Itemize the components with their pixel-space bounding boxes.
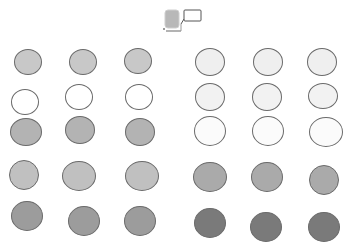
circle-node[interactable] [69, 49, 97, 75]
circle-node[interactable] [195, 83, 225, 111]
circle-node[interactable] [194, 208, 226, 238]
circle-node[interactable] [124, 48, 152, 74]
circle-node[interactable] [125, 84, 153, 110]
circle-node[interactable] [10, 118, 42, 146]
circle-node[interactable] [308, 83, 338, 109]
circle-node[interactable] [65, 84, 93, 110]
node-with-callout-icon[interactable] [160, 6, 205, 38]
circle-node[interactable] [250, 212, 282, 242]
circle-node[interactable] [124, 206, 156, 236]
circle-node[interactable] [14, 49, 42, 75]
circle-node[interactable] [308, 212, 340, 242]
circle-node[interactable] [253, 48, 283, 76]
circle-node[interactable] [252, 83, 282, 111]
circle-node[interactable] [65, 116, 95, 144]
circle-node[interactable] [252, 116, 284, 146]
circle-node[interactable] [309, 117, 343, 147]
circle-node[interactable] [193, 162, 227, 192]
circle-node[interactable] [195, 48, 225, 76]
circle-node[interactable] [307, 48, 337, 76]
circle-node[interactable] [11, 201, 43, 231]
dot-canvas [0, 0, 349, 252]
circle-node[interactable] [9, 160, 39, 190]
circle-node[interactable] [309, 165, 339, 195]
circle-node[interactable] [251, 162, 283, 192]
circle-node[interactable] [11, 89, 39, 115]
circle-node[interactable] [62, 161, 96, 191]
circle-node[interactable] [125, 118, 155, 146]
circle-node[interactable] [125, 161, 159, 191]
circle-node[interactable] [194, 116, 226, 146]
circle-node[interactable] [68, 206, 100, 236]
